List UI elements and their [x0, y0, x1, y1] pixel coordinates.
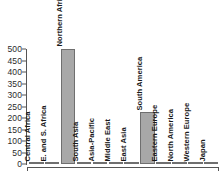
y-axis-tick-label: 350 — [8, 79, 22, 88]
y-axis-tick-mark — [22, 49, 26, 50]
x-axis-line — [27, 167, 219, 168]
y-axis-tick-mark — [22, 164, 26, 165]
y-axis-tick-label: 250 — [8, 102, 22, 111]
y-axis-tick-label: 300 — [8, 91, 22, 100]
y-axis-tick-mark — [22, 83, 26, 84]
bar[interactable] — [109, 162, 124, 164]
bar-category-label: Central Africa — [25, 112, 33, 162]
bar-category-label: Asia-Pacific — [88, 118, 96, 162]
y-axis-tick-mark — [22, 72, 26, 73]
y-axis-tick-label: 450 — [8, 56, 22, 65]
plot-area: Central AfricaE. and S. AfricaNorthern A… — [27, 0, 222, 174]
bar[interactable] — [77, 162, 92, 164]
y-axis-tick-label: 500 — [8, 45, 22, 54]
y-axis-tick-mark — [22, 60, 26, 61]
y-axis-tick-label: 200 — [8, 114, 22, 123]
bar-category-label: North America — [168, 109, 176, 162]
bar-category-label: Japan — [200, 140, 208, 162]
bar-chart: 050100150200250300350400450500 Central A… — [0, 0, 222, 174]
bar-category-label: South America — [136, 57, 144, 111]
x-axis-tick-left — [27, 167, 28, 171]
y-axis-tick-label: 150 — [8, 125, 22, 134]
bar[interactable] — [45, 162, 60, 164]
x-axis-tick-right — [218, 167, 219, 171]
bar[interactable] — [29, 162, 44, 164]
y-axis-tick-label: 100 — [8, 137, 22, 146]
bar[interactable] — [204, 162, 219, 164]
bar-category-label: Eastern Europe — [152, 105, 160, 162]
bar-category-label: East Asia — [120, 128, 128, 162]
y-axis-tick-label: 400 — [8, 68, 22, 77]
bar[interactable] — [172, 162, 187, 164]
y-axis-tick-label: 50 — [12, 148, 22, 157]
bar-category-label: E. and S. Africa — [41, 106, 49, 162]
bar-category-label: Western Europe — [184, 103, 192, 162]
y-axis-tick-mark — [22, 95, 26, 96]
bar[interactable] — [124, 162, 139, 164]
y-axis-tick-mark — [22, 106, 26, 107]
bar-category-label: Northern Africa — [57, 0, 65, 47]
bar-category-label: South Asia — [72, 122, 80, 162]
bar[interactable] — [93, 162, 108, 164]
bar-category-label: Middle East — [104, 119, 112, 162]
bar[interactable] — [156, 162, 171, 164]
bar[interactable] — [188, 162, 203, 164]
